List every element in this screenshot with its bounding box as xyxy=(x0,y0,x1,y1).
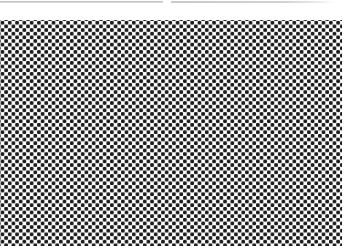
polka-dot-pattern xyxy=(0,20,342,246)
divider-segment-right xyxy=(171,1,333,3)
right-margin-strip xyxy=(342,20,350,246)
divider-segment-left xyxy=(0,1,163,3)
screen-root xyxy=(0,0,350,246)
header-gap-band xyxy=(0,4,350,21)
